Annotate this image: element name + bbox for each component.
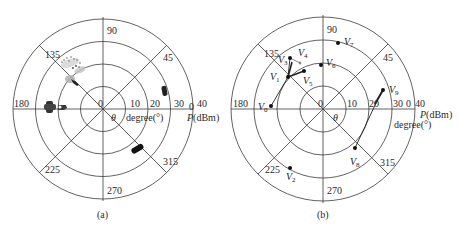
angle-label-90: 90 [107, 25, 117, 36]
caption-a: (a) [97, 209, 108, 221]
radial-tick-30: 30 [174, 98, 184, 109]
label-v6: V6 [326, 57, 336, 70]
point-v6 [319, 63, 323, 67]
angle-label-135: 135 [45, 49, 60, 60]
angle-label-225: 225 [45, 164, 60, 175]
label-v7: V7 [344, 36, 354, 49]
angle-label-45: 45 [383, 52, 393, 63]
radial-tick-0-secondary: 0 [189, 101, 194, 112]
label-v5: V5 [303, 75, 313, 88]
angle-label-225: 225 [265, 164, 280, 175]
angle-label-270: 270 [107, 185, 122, 196]
point-v5 [302, 69, 306, 73]
label-v4: V4 [298, 47, 308, 60]
radial-tick-30: 30 [393, 98, 403, 109]
point-v9 [381, 88, 385, 92]
label-v2: V2 [286, 171, 296, 184]
radial-tick-10: 10 [347, 98, 357, 109]
theta-symbol: θ [111, 112, 116, 123]
angle-label-270: 270 [327, 185, 342, 196]
label-v8: V8 [350, 156, 360, 169]
angular-axis-label: degree(°) [394, 119, 431, 131]
radial-tick-10: 10 [130, 98, 140, 109]
label-v0: V0 [258, 101, 268, 114]
point-v3 [288, 56, 292, 60]
angle-label-45: 45 [163, 52, 173, 63]
angle-label-315: 315 [380, 157, 395, 168]
radial-tick-0: 0 [318, 98, 323, 109]
point-v1 [286, 75, 290, 79]
angular-axis-label: degree(°) [126, 112, 163, 124]
radial-tick-20: 20 [150, 98, 160, 109]
angle-label-180: 180 [233, 98, 248, 109]
angle-label-180: 180 [14, 98, 29, 109]
angle-label-90: 90 [327, 24, 337, 35]
caption-b: (b) [317, 209, 329, 221]
trajectory-lines [271, 58, 383, 148]
radial-axis-label: P(dBm) [186, 112, 219, 124]
point-v4 [299, 62, 302, 65]
point-v0 [269, 104, 273, 108]
theta-symbol: θ [333, 112, 338, 123]
angle-label-315: 315 [163, 156, 178, 167]
point-v7 [336, 41, 340, 45]
radial-tick-40: 40 [197, 98, 207, 109]
figure: 90 45 135 180 225 270 315 0 10 20 30 0 4… [0, 0, 459, 228]
label-v1: V1 [270, 71, 280, 84]
point-v2 [288, 166, 292, 170]
radial-tick-40: 40 [415, 98, 425, 109]
polar-chart-a: 90 45 135 180 225 270 315 0 10 20 30 0 4… [13, 17, 219, 221]
radial-tick-0-secondary: 0 [406, 98, 411, 109]
angle-label-135: 135 [264, 48, 279, 59]
polar-chart-b: V0 V1 V2 V3 V4 V5 V6 V7 V8 V9 90 45 135 … [231, 15, 452, 221]
point-v8 [353, 146, 357, 150]
radial-tick-20: 20 [369, 98, 379, 109]
radial-tick-0: 0 [98, 98, 103, 109]
